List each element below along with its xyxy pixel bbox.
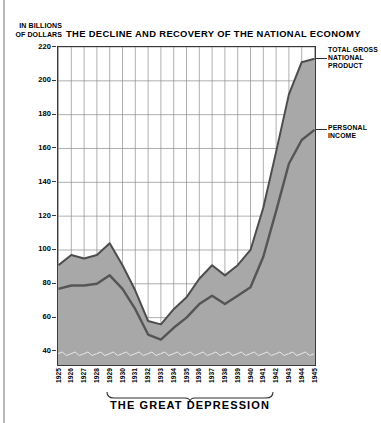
x-axis-tick-label: 1945: [311, 368, 337, 394]
series-label-gnp-line3: PRODUCT: [328, 62, 378, 70]
gnp-leader-line: [316, 58, 327, 59]
y-axis-tick-label: 100: [21, 244, 51, 253]
personal-income-leader-line: [316, 129, 327, 130]
y-axis-tick-mark: [52, 249, 56, 250]
y-axis-tick-label: 40: [21, 346, 51, 355]
series-label-gnp: TOTAL GROSS NATIONAL PRODUCT: [328, 46, 378, 70]
y-axis-tick-label: 120: [21, 211, 51, 220]
series-label-gnp-line1: TOTAL GROSS: [328, 46, 378, 54]
plot-svg: [58, 47, 315, 365]
plot-area: [57, 46, 316, 366]
y-axis-tick-mark: [52, 46, 56, 47]
y-axis-tick-mark: [52, 80, 56, 81]
y-axis-tick-mark: [52, 350, 56, 351]
axis-unit-caption: IN BILLIONS OF DOLLARS: [12, 22, 62, 39]
chart-title: THE DECLINE AND RECOVERY OF THE NATIONAL…: [66, 28, 316, 39]
series-label-personal-income: PERSONAL INCOME: [328, 124, 367, 140]
page-edge-rule: [3, 0, 5, 423]
y-axis-tick-label: 220: [21, 42, 51, 51]
y-axis-tick-label: 80: [21, 278, 51, 287]
depression-caption: THE GREAT DEPRESSION: [85, 399, 295, 411]
series-label-gnp-line2: NATIONAL: [328, 54, 378, 62]
y-axis-tick-mark: [52, 147, 56, 148]
y-axis-tick-label: 200: [21, 75, 51, 84]
axis-unit-caption-line2: OF DOLLARS: [12, 31, 62, 40]
axis-unit-caption-line1: IN BILLIONS: [12, 22, 62, 31]
y-axis-tick-mark: [52, 283, 56, 284]
y-axis-tick-label: 180: [21, 109, 51, 118]
series-label-pi-line1: PERSONAL: [328, 124, 367, 132]
y-axis-tick-mark: [52, 114, 56, 115]
y-axis-tick-mark: [52, 181, 56, 182]
y-axis-tick-mark: [52, 215, 56, 216]
economy-chart-figure: IN BILLIONS OF DOLLARS THE DECLINE AND R…: [0, 0, 381, 423]
series-label-pi-line2: INCOME: [328, 132, 367, 140]
y-axis-tick-label: 160: [21, 143, 51, 152]
y-axis-tick-mark: [52, 317, 56, 318]
y-axis-tick-label: 60: [21, 312, 51, 321]
y-axis-tick-label: 140: [21, 177, 51, 186]
